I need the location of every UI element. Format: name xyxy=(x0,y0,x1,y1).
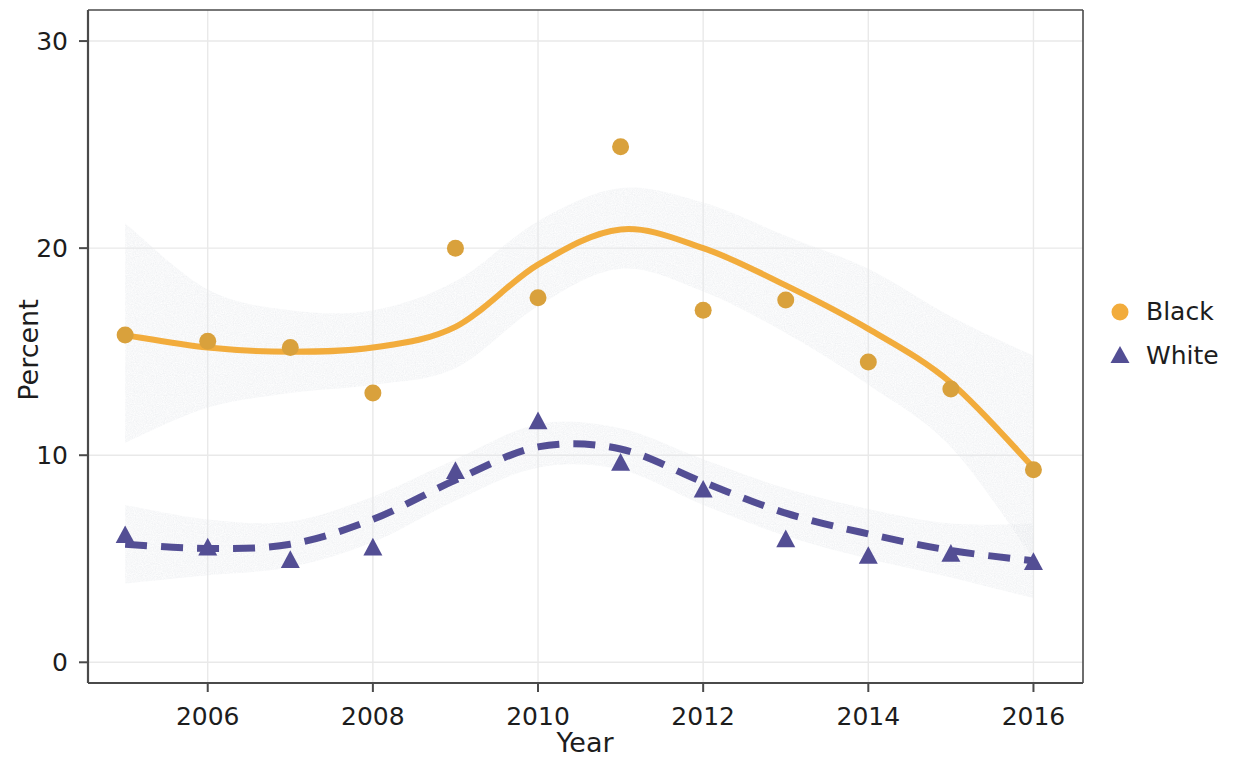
legend-label: Black xyxy=(1146,297,1214,326)
data-point-black xyxy=(530,289,547,306)
data-point-black xyxy=(612,138,629,155)
legend: BlackWhite xyxy=(1111,297,1219,370)
data-point-black xyxy=(695,302,712,319)
data-point-black xyxy=(777,291,794,308)
y-tick-label: 30 xyxy=(36,27,68,56)
chart-canvas: 200620082010201220142016 0102030 Year Pe… xyxy=(0,0,1255,767)
y-tick-label: 20 xyxy=(36,234,68,263)
y-tick-label: 10 xyxy=(36,441,68,470)
x-axis-title: Year xyxy=(555,727,614,758)
data-point-black xyxy=(1025,461,1042,478)
legend-marker-triangle-icon xyxy=(1111,346,1130,363)
data-point-black xyxy=(199,333,216,350)
data-point-black xyxy=(364,385,381,402)
legend-item-white[interactable]: White xyxy=(1111,341,1219,370)
y-axis-ticks xyxy=(79,41,88,662)
x-tick-label: 2016 xyxy=(1002,702,1066,731)
legend-label: White xyxy=(1146,341,1219,370)
data-point-black xyxy=(282,339,299,356)
data-point-black xyxy=(117,327,134,344)
data-point-black xyxy=(942,380,959,397)
x-axis-ticks xyxy=(208,683,1034,692)
x-tick-label: 2006 xyxy=(176,702,240,731)
chart-figure: 200620082010201220142016 0102030 Year Pe… xyxy=(0,0,1255,767)
y-axis-title: Percent xyxy=(13,299,44,401)
data-point-black xyxy=(447,240,464,257)
data-point-black xyxy=(860,354,877,371)
x-tick-label: 2008 xyxy=(341,702,405,731)
legend-marker-circle-icon xyxy=(1112,304,1129,321)
x-tick-label: 2014 xyxy=(836,702,900,731)
x-axis-tick-labels: 200620082010201220142016 xyxy=(176,702,1065,731)
legend-item-black[interactable]: Black xyxy=(1112,297,1215,326)
x-tick-label: 2012 xyxy=(671,702,735,731)
y-tick-label: 0 xyxy=(52,648,68,677)
